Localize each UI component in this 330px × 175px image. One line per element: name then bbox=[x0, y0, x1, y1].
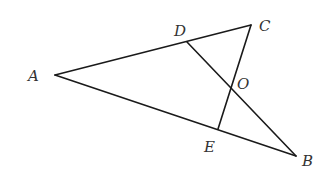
point-label-o: O bbox=[237, 75, 249, 93]
point-label-e: E bbox=[203, 138, 215, 156]
point-label-a: A bbox=[26, 67, 39, 85]
segment-AB bbox=[55, 75, 296, 156]
geometry-diagram: A B C D E O bbox=[0, 0, 330, 175]
point-label-d: D bbox=[173, 22, 186, 40]
segments-group bbox=[55, 25, 296, 156]
point-label-b: B bbox=[301, 152, 313, 170]
segment-AC bbox=[55, 25, 251, 75]
point-label-c: C bbox=[259, 17, 271, 35]
